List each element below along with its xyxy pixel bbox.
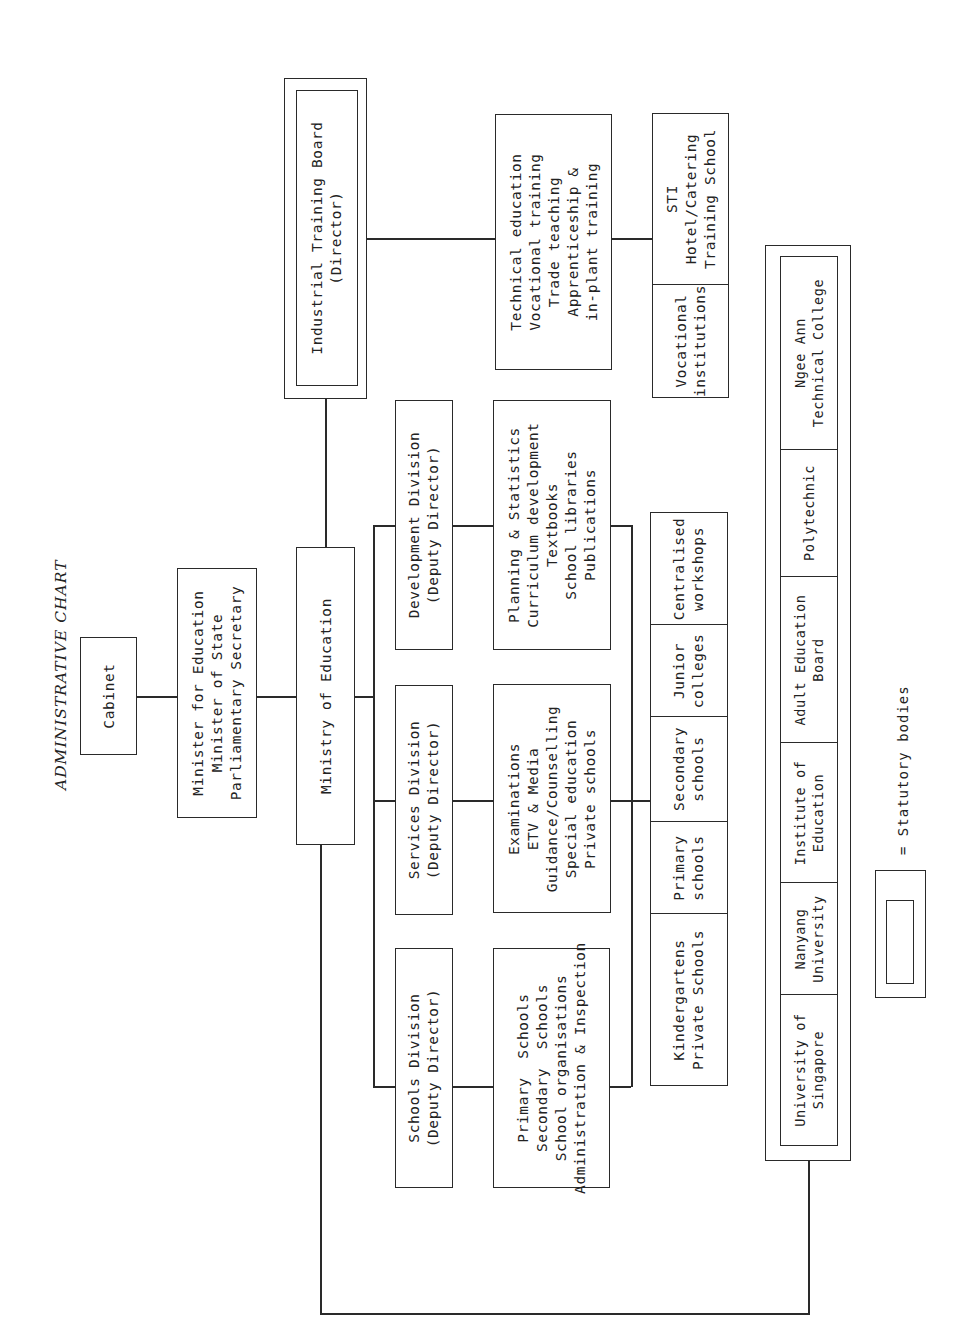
- school-types-box: Centralised workshops Junior colleges Se…: [650, 512, 728, 1086]
- services-division-label: Services Division (Deputy Director): [405, 721, 443, 880]
- connector-serv-bracket: [611, 800, 631, 802]
- connector-development-functions: [453, 525, 493, 527]
- school-type-cell: Centralised workshops: [651, 513, 727, 624]
- schools-functions-box: Primary Schools Secondary Schools School…: [493, 948, 610, 1188]
- statutory-body-cell: Institute of Education: [781, 742, 837, 882]
- institution-cell-vocational: Vocational institutions: [653, 284, 728, 397]
- functions-bracket-right: [631, 525, 633, 1087]
- connector-ministry-divisions: [355, 696, 373, 698]
- connector-minister-ministry: [257, 696, 296, 698]
- connector-to-services: [373, 800, 395, 802]
- statutory-body-label: Institute of Education: [791, 760, 827, 865]
- ministry-of-education-box: Ministry of Education: [296, 547, 355, 845]
- legend-symbol-inner: [886, 900, 914, 984]
- connector-ministry-itb: [325, 398, 327, 547]
- services-functions-box: Examinations ETV & Media Guidance/Counse…: [493, 684, 611, 913]
- statutory-body-cell: University of Singapore: [781, 994, 837, 1145]
- statutory-body-cell: Nanyang University: [781, 882, 837, 994]
- statutory-body-label: University of Singapore: [791, 1013, 827, 1126]
- development-functions-box: Planning & Statistics Curriculum develop…: [493, 400, 611, 650]
- statutory-body-label: Ngee Ann Technical College: [791, 279, 827, 427]
- industrial-training-board-box: Industrial Training Board (Director): [296, 90, 358, 386]
- institution-label: Vocational institutions: [672, 285, 710, 397]
- connector-schools-functions: [453, 1086, 493, 1088]
- school-type-label: Kindergartens Private Schools: [670, 930, 708, 1070]
- statutory-body-cell: Polytechnic: [781, 449, 837, 576]
- minister-box: Minister for Education Minister of State…: [177, 568, 257, 818]
- school-type-cell: Primary schools: [651, 821, 727, 913]
- school-type-cell: Junior colleges: [651, 624, 727, 716]
- school-type-label: Primary schools: [670, 835, 708, 900]
- school-type-cell: Secondary schools: [651, 716, 727, 821]
- statutory-bodies-box: Ngee Ann Technical College Polytechnic A…: [780, 256, 838, 1146]
- development-division-box: Development Division (Deputy Director): [395, 400, 453, 650]
- schools-functions-label: Primary Schools Secondary Schools School…: [514, 942, 590, 1194]
- development-division-label: Development Division (Deputy Director): [405, 432, 443, 619]
- connector-to-development: [373, 525, 395, 527]
- connector-schools-bracket: [610, 1086, 631, 1088]
- cabinet-label: Cabinet: [99, 663, 118, 728]
- legend-text: = Statutory bodies: [895, 685, 911, 855]
- school-type-label: Centralised workshops: [670, 517, 708, 620]
- itb-functions-label: Technical education Vocational training …: [506, 153, 601, 330]
- institution-cell-sti: STI Hotel/Catering Training School: [653, 114, 728, 284]
- chart-title: ADMINISTRATIVE CHART: [52, 560, 70, 790]
- statutory-body-cell: Ngee Ann Technical College: [781, 257, 837, 449]
- connector-loop-up-statutory: [808, 1160, 810, 1315]
- schools-division-box: Schools Division (Deputy Director): [395, 948, 453, 1188]
- connector-bracket-school-types: [631, 800, 650, 802]
- connector-loop-bottom: [320, 1313, 809, 1315]
- services-division-box: Services Division (Deputy Director): [395, 685, 453, 915]
- cabinet-box: Cabinet: [80, 637, 137, 755]
- school-type-label: Secondary schools: [670, 727, 708, 811]
- institution-label: STI Hotel/Catering Training School: [662, 129, 719, 269]
- connector-dev-bracket: [611, 525, 631, 527]
- connector-services-functions: [453, 800, 493, 802]
- statutory-body-label: Polytechnic: [800, 465, 818, 561]
- itb-institutions-box: STI Hotel/Catering Training School Vocat…: [652, 113, 729, 398]
- statutory-body-cell: Adult Education Board: [781, 576, 837, 742]
- connector-itbfunctions-institutions: [612, 238, 652, 240]
- schools-division-label: Schools Division (Deputy Director): [405, 989, 443, 1148]
- connector-itb-functions: [366, 238, 495, 240]
- connector-ministry-loop-down: [320, 845, 322, 1315]
- itb-functions-box: Technical education Vocational training …: [495, 114, 612, 370]
- school-type-label: Junior colleges: [670, 633, 708, 708]
- connector-to-schools: [373, 1086, 395, 1088]
- connector-cabinet-minister: [137, 696, 177, 698]
- divisions-bracket-left: [373, 525, 375, 1087]
- statutory-body-label: Nanyang University: [791, 895, 827, 982]
- development-functions-label: Planning & Statistics Curriculum develop…: [505, 422, 600, 627]
- services-functions-label: Examinations ETV & Media Guidance/Counse…: [505, 705, 600, 892]
- school-type-cell: Kindergartens Private Schools: [651, 913, 727, 1085]
- ministry-label: Ministry of Education: [316, 598, 335, 794]
- itb-label: Industrial Training Board (Director): [308, 121, 346, 354]
- minister-label: Minister for Education Minister of State…: [189, 586, 246, 801]
- statutory-body-label: Adult Education Board: [791, 594, 827, 725]
